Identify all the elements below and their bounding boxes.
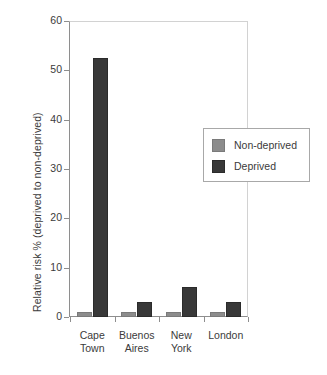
y-tick-mark	[64, 120, 69, 121]
bar-non-deprived	[166, 312, 181, 317]
y-tick-mark	[64, 70, 69, 71]
y-tick-label: 60	[36, 15, 62, 26]
legend-swatch-icon-deprived	[212, 160, 225, 173]
bar-non-deprived	[121, 312, 136, 317]
bar-deprived	[226, 302, 241, 317]
legend-label-non-deprived: Non-deprived	[234, 139, 297, 152]
y-tick-mark	[64, 268, 69, 269]
bar-deprived	[137, 302, 152, 317]
y-tick-label: 20	[36, 212, 62, 223]
chart-legend: Non-deprived Deprived	[203, 128, 310, 182]
y-axis-ticks: 0102030405060	[34, 0, 62, 375]
y-tick-label: 30	[36, 163, 62, 174]
y-tick-label: 10	[36, 262, 62, 273]
bar-non-deprived	[210, 312, 225, 317]
x-tick-mark	[115, 317, 116, 322]
y-tick-mark	[64, 317, 69, 318]
y-tick-mark	[64, 21, 69, 22]
bar-non-deprived	[77, 312, 92, 317]
bar-deprived	[93, 58, 108, 317]
y-tick-mark	[64, 169, 69, 170]
chart-figure: Relative risk % (deprived to non-deprive…	[0, 0, 327, 375]
y-tick-mark	[64, 218, 69, 219]
x-tick-mark	[159, 317, 160, 322]
legend-item-non-deprived: Non-deprived	[212, 137, 297, 153]
y-tick-label: 50	[36, 64, 62, 75]
bar-deprived	[182, 287, 197, 317]
x-tick-mark	[204, 317, 205, 322]
legend-label-deprived: Deprived	[234, 160, 276, 173]
x-tick-mark	[248, 317, 249, 322]
y-tick-label: 40	[36, 114, 62, 125]
legend-swatch-icon-non-deprived	[212, 139, 225, 152]
legend-item-deprived: Deprived	[212, 158, 276, 174]
x-tick-label: London	[198, 329, 255, 342]
x-tick-mark	[70, 317, 71, 322]
y-tick-label: 0	[36, 311, 62, 322]
